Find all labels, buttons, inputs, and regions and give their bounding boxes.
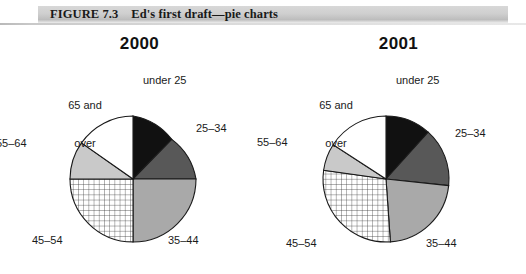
pie-label-45-54: 45–54 bbox=[32, 234, 63, 247]
figure-caption-bar: FIGURE 7.3 Ed's first draft—pie charts bbox=[38, 6, 508, 23]
pie-slice-35-44 bbox=[133, 179, 196, 242]
pie-label-25-34: 25–34 bbox=[455, 127, 486, 140]
pie-label-55-64: 55–64 bbox=[0, 137, 27, 150]
chart-panel-2000: 2000 65 and over under 25 25–34 35–44 45… bbox=[0, 28, 263, 274]
figure-caption-text: FIGURE 7.3 Ed's first draft—pie charts bbox=[50, 7, 278, 22]
pie-label-65-and-over: 65 and over bbox=[301, 74, 371, 174]
pie-slice-45-54 bbox=[323, 170, 390, 242]
pie-label-under-25: under 25 bbox=[143, 74, 186, 87]
pie-label-under-25: under 25 bbox=[396, 74, 439, 87]
pie-label-25-34: 25–34 bbox=[196, 122, 227, 135]
pie-label-45-54: 45–54 bbox=[286, 237, 317, 250]
pie-label-35-44: 35–44 bbox=[426, 237, 457, 250]
pie-label-65-and-over: 65 and over bbox=[50, 74, 120, 174]
caption-divider bbox=[0, 23, 526, 25]
pie-label-35-44: 35–44 bbox=[168, 234, 199, 247]
pie-label-55-64: 55–64 bbox=[257, 136, 288, 149]
chart-panel-2001: 2001 65 and over under 25 25–34 35–44 45… bbox=[263, 28, 526, 274]
pie-slice-35-44 bbox=[386, 179, 449, 242]
pie-slice-45-54 bbox=[70, 179, 133, 242]
